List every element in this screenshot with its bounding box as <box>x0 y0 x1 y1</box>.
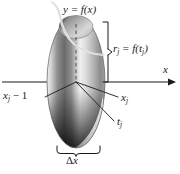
disk-solid <box>47 16 105 151</box>
label-delta-variable: x <box>73 154 78 166</box>
label-radius: rj = f(tj) <box>113 43 148 55</box>
label-x-j-subscript: j <box>126 96 128 105</box>
disk-method-figure: y = f(x) rj = f(tj) x xj − 1 xj tj Δx <box>0 0 180 174</box>
figure-canvas <box>0 0 180 174</box>
label-radius-close-paren: ) <box>144 42 148 54</box>
x-axis-arrowhead <box>168 78 176 85</box>
label-x-j-minus-1: xj − 1 <box>3 90 27 102</box>
label-delta-x: Δx <box>66 155 78 166</box>
label-t-j: tj <box>117 116 122 128</box>
label-x-j-minus-1-tail: − 1 <box>10 89 27 101</box>
label-x-axis: x <box>163 64 168 75</box>
label-radius-equals: = f(t <box>119 42 142 54</box>
label-x-j: xj <box>121 92 128 104</box>
label-t-j-subscript: j <box>120 120 122 129</box>
label-function-curve: y = f(x) <box>63 4 96 15</box>
